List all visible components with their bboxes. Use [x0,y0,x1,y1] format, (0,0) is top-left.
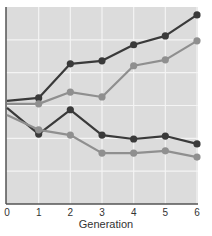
data-point-marker [162,132,169,139]
data-point-marker [67,106,74,113]
data-point-marker [67,88,74,95]
x-tick-label: 0 [4,207,10,218]
data-point-marker [162,147,169,154]
data-point-marker [162,56,169,63]
x-tick-label: 3 [99,207,105,218]
data-point-marker [67,131,74,138]
data-point-marker [98,93,105,100]
data-point-marker [98,150,105,157]
x-tick-label: 6 [194,207,200,218]
data-point-marker [193,11,200,18]
data-point-marker [162,32,169,39]
data-point-marker [130,135,137,142]
data-point-marker [130,62,137,69]
x-tick-label: 2 [68,207,74,218]
data-point-marker [67,60,74,67]
data-point-marker [130,150,137,157]
x-tick-label: 5 [163,207,169,218]
x-tick-label: 1 [36,207,42,218]
x-axis-label: Generation [0,218,212,230]
data-point-marker [193,37,200,44]
data-point-marker [35,100,42,107]
data-point-marker [98,131,105,138]
line-chart: 0123456 [0,0,212,236]
x-tick-labels: 0123456 [4,207,200,218]
data-point-marker [98,57,105,64]
data-point-marker [130,41,137,48]
data-point-marker [193,140,200,147]
data-point-marker [193,153,200,160]
x-tick-label: 4 [131,207,137,218]
data-point-marker [35,126,42,133]
